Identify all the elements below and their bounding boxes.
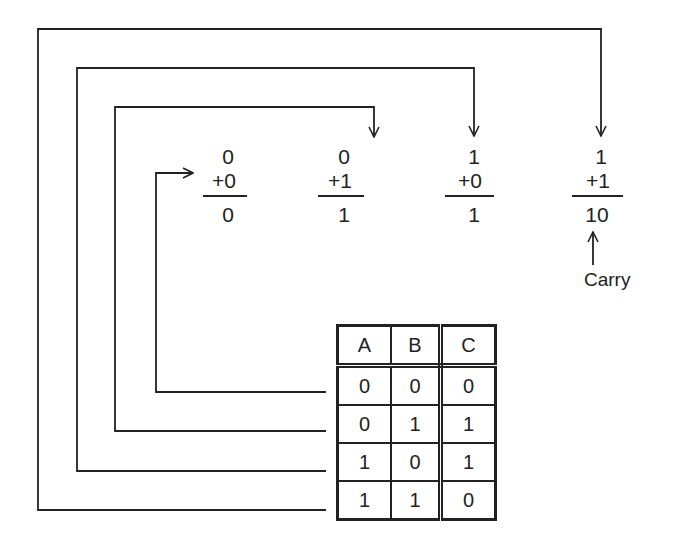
cell-b: 0 — [391, 443, 441, 481]
header-b: B — [391, 326, 441, 366]
cell-c: 0 — [441, 481, 496, 520]
cell-a: 1 — [338, 443, 392, 481]
cell-c: 1 — [441, 405, 496, 443]
sum-1: 0 — [198, 204, 258, 226]
wire-row4 — [38, 29, 601, 510]
cell-b: 1 — [391, 405, 441, 443]
table-row: 1 1 0 — [338, 481, 496, 520]
cell-b: 1 — [391, 481, 441, 520]
augend-1: 0 — [198, 146, 258, 168]
table-row: 0 0 0 — [338, 366, 496, 406]
cell-b: 0 — [391, 366, 441, 406]
sum-2: 1 — [314, 204, 374, 226]
augend-2: 0 — [314, 146, 374, 168]
cell-a: 1 — [338, 481, 392, 520]
header-c: C — [441, 326, 496, 366]
addend-4: +1 — [568, 170, 628, 192]
addend-3: +0 — [440, 170, 500, 192]
cell-c: 0 — [441, 366, 496, 406]
augend-3: 1 — [444, 146, 504, 168]
table-row: 1 0 1 — [338, 443, 496, 481]
header-a: A — [338, 326, 392, 366]
addend-1: +0 — [194, 170, 254, 192]
augend-4: 1 — [571, 146, 631, 168]
cell-a: 0 — [338, 405, 392, 443]
carry-label: Carry — [584, 269, 630, 291]
truth-table-header: A B C — [338, 326, 496, 366]
sum-3: 1 — [444, 204, 504, 226]
cell-a: 0 — [338, 366, 392, 406]
cell-c: 1 — [441, 443, 496, 481]
addend-2: +1 — [310, 170, 370, 192]
table-row: 0 1 1 — [338, 405, 496, 443]
truth-table: A B C 0 0 0 0 1 1 1 0 1 1 1 0 — [336, 324, 497, 521]
sum-4: 10 — [567, 204, 627, 226]
